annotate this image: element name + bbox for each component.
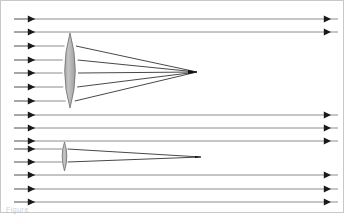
refracted-ray bbox=[77, 72, 197, 87]
incoming-ray-arrowhead bbox=[28, 84, 35, 91]
incoming-ray-arrowhead bbox=[28, 16, 35, 23]
lens-group bbox=[62, 33, 75, 171]
outgoing-ray-arrowhead bbox=[324, 16, 331, 23]
incoming-ray-arrowhead bbox=[28, 57, 35, 64]
incoming-ray-arrowhead bbox=[28, 159, 35, 166]
incoming-ray-arrowhead bbox=[28, 29, 35, 36]
refracted-ray bbox=[78, 60, 197, 72]
incoming-ray-arrowhead bbox=[28, 112, 35, 119]
outgoing-ray-arrowhead bbox=[324, 112, 331, 119]
incoming-ray-arrowhead bbox=[28, 186, 35, 193]
outgoing-ray-arrowhead bbox=[324, 29, 331, 36]
outgoing-ray-arrowhead bbox=[324, 138, 331, 145]
refracted-ray-group bbox=[68, 46, 201, 162]
incoming-ray-arrowhead bbox=[28, 199, 35, 206]
lens-small-lens bbox=[62, 142, 67, 171]
ray-diagram-figure: Figure bbox=[0, 0, 345, 214]
incoming-ray-arrowhead bbox=[28, 146, 35, 153]
focal-point-group bbox=[188, 70, 201, 158]
outgoing-ray-arrowhead bbox=[324, 125, 331, 132]
incoming-ray-group bbox=[14, 19, 331, 202]
refracted-ray bbox=[75, 72, 197, 101]
incoming-ray-arrowhead bbox=[28, 125, 35, 132]
incoming-ray-arrowhead bbox=[28, 172, 35, 179]
focal-point-small-lens bbox=[195, 156, 201, 158]
caption-fragment: Figure bbox=[6, 206, 126, 214]
incoming-ray-arrowhead bbox=[28, 43, 35, 50]
optics-ray-canvas bbox=[0, 0, 345, 214]
outgoing-ray-arrowhead bbox=[324, 199, 331, 206]
arrowhead-group bbox=[28, 16, 331, 206]
outgoing-ray-arrowhead bbox=[324, 172, 331, 179]
refracted-ray bbox=[68, 157, 201, 162]
refracted-ray bbox=[78, 72, 197, 73]
outgoing-ray-arrowhead bbox=[324, 186, 331, 193]
refracted-ray bbox=[68, 149, 201, 157]
incoming-ray-arrowhead bbox=[28, 70, 35, 77]
incoming-ray-arrowhead bbox=[28, 98, 35, 105]
incoming-ray-arrowhead bbox=[28, 138, 35, 145]
refracted-ray bbox=[76, 46, 197, 72]
lens-large-lens bbox=[65, 33, 76, 108]
outgoing-ray-group bbox=[331, 19, 338, 202]
